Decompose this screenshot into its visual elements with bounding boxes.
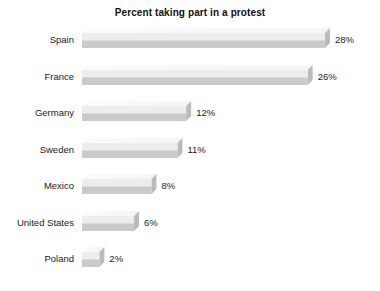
bar-row: Spain28% <box>0 26 380 60</box>
bar-row: Poland2% <box>0 245 380 279</box>
bar-chart: Percent taking part in a protest Spain28… <box>0 0 380 291</box>
bar-row: France26% <box>0 63 380 97</box>
bar-shape <box>82 65 313 85</box>
value-label: 26% <box>318 71 337 83</box>
category-label: Spain <box>0 34 74 46</box>
value-label: 11% <box>187 144 205 156</box>
value-label: 28% <box>335 34 354 46</box>
bar-shape <box>82 247 104 267</box>
bar-shape <box>82 28 330 48</box>
value-label: 8% <box>161 180 175 192</box>
category-label: Sweden <box>0 144 74 156</box>
value-label: 2% <box>109 253 123 265</box>
bar-shape <box>82 174 156 194</box>
bar <box>82 65 313 91</box>
chart-title: Percent taking part in a protest <box>0 7 380 18</box>
plot-area: Spain28%France26%Germany12%Sweden11%Mexi… <box>0 26 380 291</box>
bar <box>82 138 182 164</box>
category-label: Mexico <box>0 180 74 192</box>
bar-shape <box>82 211 139 231</box>
bar-row: Sweden11% <box>0 136 380 170</box>
bar <box>82 101 191 127</box>
bar <box>82 28 330 54</box>
category-label: Germany <box>0 107 74 119</box>
bar <box>82 247 104 273</box>
bar <box>82 174 156 200</box>
bar <box>82 211 139 237</box>
bar-row: Germany12% <box>0 99 380 133</box>
value-label: 12% <box>196 107 215 119</box>
bar-row: United States6% <box>0 209 380 243</box>
bar-row: Mexico8% <box>0 172 380 206</box>
bar-shape <box>82 138 182 158</box>
category-label: France <box>0 71 74 83</box>
value-label: 6% <box>144 217 158 229</box>
category-label: Poland <box>0 253 74 265</box>
bar-shape <box>82 101 191 121</box>
category-label: United States <box>0 217 74 229</box>
